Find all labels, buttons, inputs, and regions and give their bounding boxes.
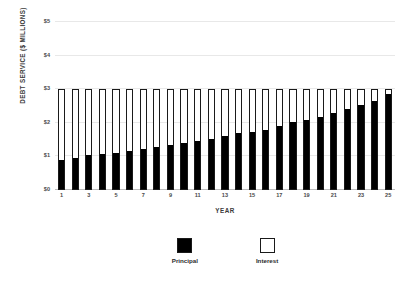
bar-segment-principal [222,136,227,189]
bar-segment-principal [73,158,78,189]
y-axis-tick-label: $4 [44,52,50,58]
legend-label: Interest [256,257,278,264]
stacked-bar [303,89,310,190]
bar-segment-principal [195,141,200,189]
x-axis-tick-label: 17 [276,192,283,204]
stacked-bar [221,89,228,190]
bar-segment-principal [113,153,118,189]
stacked-bar [249,89,256,190]
y-axis-tick-label: $5 [44,18,50,24]
x-axis-tick-blank: . [317,192,324,204]
x-axis-tick-label: 25 [385,192,392,204]
bar-segment-principal [304,120,309,189]
bar-segment-principal [277,126,282,189]
bar-segment-principal [386,94,391,189]
x-axis-tick-blank: . [235,192,242,204]
x-axis-tick-blank: . [180,192,187,204]
bar-segment-principal [86,155,91,189]
stacked-bar [357,89,364,190]
chart-legend: PrincipalInterest [55,238,395,264]
stacked-bar [289,89,296,190]
x-axis-tick-labels: 1.3.5.7.9.11.13.15.17.19.21.23.25 [55,192,395,204]
stacked-bar [180,89,187,190]
bar-segment-principal [318,117,323,189]
x-axis-tick-label: 11 [194,192,201,204]
stacked-bar [330,89,337,190]
x-axis-tick-blank: . [126,192,133,204]
plot-area: $0$1$2$3$4$5 [55,22,395,190]
stacked-bar [317,89,324,190]
x-axis-tick-label: 21 [330,192,337,204]
x-axis-tick-label: 5 [112,192,119,204]
x-axis-tick-label: 3 [85,192,92,204]
stacked-bar [167,89,174,190]
y-axis-tick-label: $2 [44,119,50,125]
x-axis-tick-blank: . [153,192,160,204]
x-axis-tick-blank: . [262,192,269,204]
stacked-bar [371,89,378,190]
bar-segment-principal [181,143,186,189]
stacked-bar [126,89,133,190]
legend-swatch-interest-icon [260,238,275,253]
legend-item-principal[interactable]: Principal [172,238,198,264]
x-axis-tick-blank: . [208,192,215,204]
x-axis-tick-blank: . [72,192,79,204]
bar-segment-principal [100,154,105,189]
legend-item-interest[interactable]: Interest [256,238,278,264]
x-axis-tick-label: 1 [58,192,65,204]
bar-segment-principal [168,145,173,189]
x-axis-tick-blank: . [289,192,296,204]
stacked-bar [194,89,201,190]
bar-segment-principal [250,132,255,189]
bar-segment-principal [372,101,377,189]
y-axis-tick-label: $1 [44,152,50,158]
bar-segment-principal [59,160,64,189]
stacked-bar [153,89,160,190]
bar-segment-principal [358,105,363,189]
bar-segment-principal [236,133,241,189]
y-axis-tick-label: $3 [44,85,50,91]
x-axis-tick-label: 19 [303,192,310,204]
stacked-bar [208,89,215,190]
bar-segment-principal [154,147,159,189]
x-axis-tick-label: 23 [357,192,364,204]
stacked-bar [140,89,147,190]
x-axis-tick-label: 15 [249,192,256,204]
stacked-bar [72,89,79,190]
stacked-bar [235,89,242,190]
stacked-bar [262,89,269,190]
stacked-bar [112,89,119,190]
bar-segment-principal [345,109,350,189]
stacked-bar [276,89,283,190]
stacked-bar [385,89,392,190]
legend-label: Principal [172,257,198,264]
bar-segment-principal [127,151,132,189]
bar-group [55,22,395,190]
x-axis-tick-label: 7 [140,192,147,204]
x-axis-tick-label: 13 [221,192,228,204]
stacked-bar [344,89,351,190]
bar-segment-principal [331,113,336,189]
debt-service-chart: DEBT SERVICE ($ MILLIONS) $0$1$2$3$4$5 1… [0,0,415,286]
bar-segment-principal [290,122,295,189]
x-axis-tick-label: 9 [167,192,174,204]
x-axis-title: YEAR [55,207,395,214]
x-axis-tick-blank: . [344,192,351,204]
bar-segment-principal [263,130,268,189]
bar-segment-principal [141,149,146,189]
x-axis-tick-blank: . [99,192,106,204]
bar-segment-principal [209,139,214,189]
legend-swatch-principal-icon [177,238,192,253]
stacked-bar [85,89,92,190]
x-axis-tick-blank: . [371,192,378,204]
y-axis-title: DEBT SERVICE ($ MILLIONS) [19,0,26,121]
y-axis-tick-label: $0 [44,186,50,192]
stacked-bar [58,89,65,190]
stacked-bar [99,89,106,190]
